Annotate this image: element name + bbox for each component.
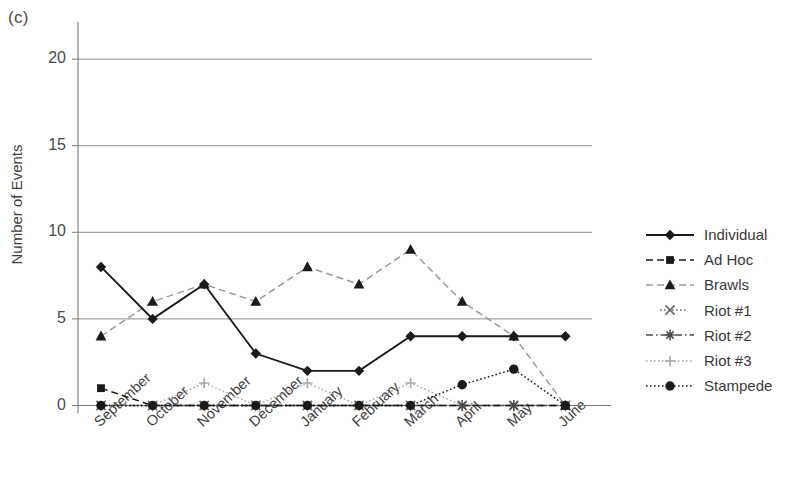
series-marker (303, 401, 312, 410)
legend-marker-icon (640, 352, 700, 370)
legend-marker-icon (640, 276, 700, 294)
series-marker (97, 384, 105, 392)
series-marker (560, 331, 570, 341)
series-marker (302, 378, 312, 388)
legend-marker-icon (640, 377, 700, 395)
legend-label: Ad Hoc (700, 251, 753, 268)
legend-marker-icon (640, 301, 700, 319)
legend-label: Riot #2 (700, 327, 752, 344)
series-marker (147, 296, 158, 306)
legend-item: Brawls (640, 272, 772, 297)
series-marker (302, 366, 312, 376)
legend-label: Brawls (700, 276, 749, 293)
legend-marker-icon (640, 326, 700, 344)
series-line (101, 369, 565, 405)
legend-label: Stampede (700, 377, 772, 394)
series-marker (251, 401, 260, 410)
legend-item: Stampede (640, 373, 772, 398)
series-marker (96, 331, 107, 341)
legend-label: Individual (700, 226, 767, 243)
series-marker (302, 261, 313, 271)
series-marker (354, 279, 365, 289)
legend-item: Ad Hoc (640, 247, 772, 272)
series-line (101, 383, 565, 406)
series-marker (405, 244, 416, 254)
legend-item: Riot #3 (640, 348, 772, 373)
chart-figure: (c) Number of Events 05101520 SeptemberO… (0, 0, 797, 492)
series-marker (199, 378, 209, 388)
series-marker (354, 401, 363, 410)
series-marker (406, 401, 415, 410)
series-marker (354, 366, 364, 376)
series-marker (458, 400, 467, 411)
chart-legend: IndividualAd HocBrawlsRiot #1Riot #2Riot… (640, 222, 772, 398)
legend-label: Riot #3 (700, 352, 752, 369)
series-marker (148, 401, 157, 410)
series-marker (509, 364, 518, 373)
series-marker (509, 400, 518, 411)
series-marker (200, 401, 209, 410)
series-marker (405, 331, 415, 341)
legend-item: Individual (640, 222, 772, 247)
legend-marker-icon (640, 251, 700, 269)
series-line (101, 388, 565, 405)
series-marker (458, 380, 467, 389)
series-line (101, 250, 565, 406)
series-marker (96, 401, 105, 410)
series-marker (405, 378, 415, 388)
legend-marker-icon (640, 226, 700, 244)
series-marker (457, 331, 467, 341)
legend-item: Riot #1 (640, 298, 772, 323)
series-marker (561, 401, 570, 410)
series-marker (457, 296, 468, 306)
legend-item: Riot #2 (640, 323, 772, 348)
legend-label: Riot #1 (700, 302, 752, 319)
